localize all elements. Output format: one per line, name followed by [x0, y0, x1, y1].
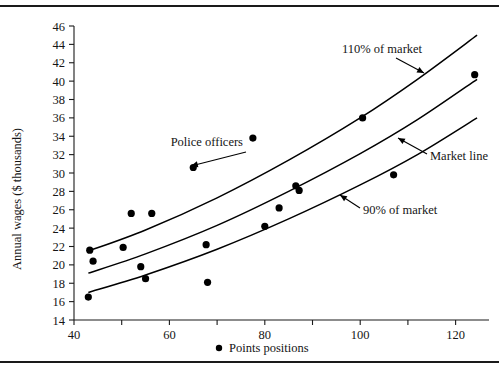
data-point	[249, 134, 256, 141]
annotation-label: Police officers	[171, 135, 243, 149]
y-axis-ticks	[69, 26, 74, 320]
annotation-label: 90% of market	[363, 203, 438, 217]
y-tick-label: 24	[53, 222, 66, 236]
data-point	[89, 258, 96, 265]
x-axis-ticks	[74, 320, 456, 325]
y-axis-tick-labels: 1416182022242628303234363840424446	[53, 20, 66, 328]
y-tick-label: 38	[53, 93, 66, 107]
y-tick-label: 46	[53, 20, 66, 34]
y-tick-label: 20	[53, 258, 66, 272]
chart-legend: Points positions	[216, 341, 309, 355]
scatter-plot: 1416182022242628303234363840424446 40608…	[0, 0, 499, 375]
chart-annotations: Police officers110% of marketMarket line…	[171, 42, 489, 217]
y-tick-label: 14	[53, 314, 66, 328]
y-tick-label: 16	[53, 295, 66, 309]
data-point	[261, 223, 268, 230]
data-point	[276, 204, 283, 211]
x-tick-label: 40	[68, 328, 81, 342]
y-tick-label: 42	[53, 56, 66, 70]
data-point	[120, 244, 127, 251]
x-tick-label: 80	[259, 328, 272, 342]
data-points	[85, 71, 479, 301]
data-point	[86, 247, 93, 254]
data-point	[85, 293, 92, 300]
y-tick-label: 40	[53, 75, 66, 89]
annotation-label: 110% of market	[342, 42, 423, 56]
data-point	[137, 263, 144, 270]
data-point	[471, 71, 478, 78]
y-tick-label: 36	[53, 111, 66, 125]
annotation-leader-line	[191, 152, 246, 166]
y-tick-label: 32	[53, 148, 66, 162]
data-point	[148, 210, 155, 217]
y-tick-label: 28	[53, 185, 66, 199]
data-point	[204, 279, 211, 286]
x-tick-label: 60	[163, 328, 176, 342]
data-point	[296, 187, 303, 194]
legend-label: Points positions	[229, 341, 309, 355]
trend-curve	[88, 35, 477, 251]
legend-marker-icon	[216, 345, 222, 351]
y-tick-label: 30	[53, 167, 66, 181]
data-point	[203, 241, 210, 248]
y-tick-label: 22	[53, 240, 66, 254]
y-axis-title: Annual wages ($ thousands)	[10, 128, 24, 270]
annotation-label: Market line	[430, 149, 488, 163]
figure-container: 1416182022242628303234363840424446 40608…	[0, 0, 499, 375]
y-tick-label: 18	[53, 277, 66, 291]
trend-curve	[88, 79, 477, 273]
x-tick-label: 100	[351, 328, 370, 342]
y-tick-label: 44	[53, 38, 66, 52]
annotation-arrow-icon	[340, 195, 347, 201]
x-axis-tick-labels: 406080100120	[68, 328, 465, 342]
y-tick-label: 34	[53, 130, 66, 144]
data-point	[128, 210, 135, 217]
data-point	[390, 171, 397, 178]
data-point	[142, 275, 149, 282]
data-point	[359, 114, 366, 121]
x-tick-label: 120	[446, 328, 465, 342]
y-tick-label: 26	[53, 203, 66, 217]
trend-curves	[88, 35, 477, 292]
